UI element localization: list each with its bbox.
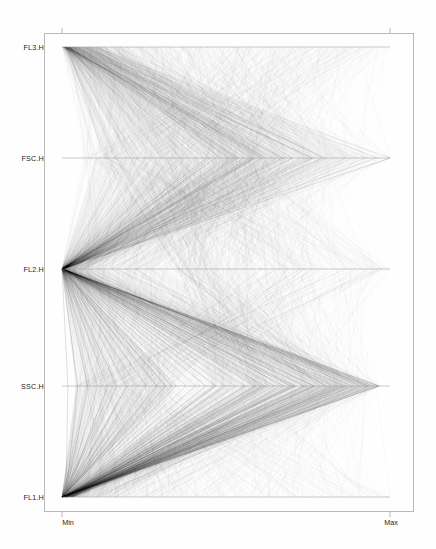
axis-label-fl3: FL3.H: [8, 43, 44, 52]
axis-label-fl1: FL1.H: [8, 493, 44, 502]
plot-canvas: [0, 0, 436, 549]
parallel-coordinates-figure: FL3.H FSC.H FL2.H SSC.H FL1.H Min Max: [0, 0, 436, 549]
parallel-coordinates-svg: [0, 0, 436, 549]
tick-label-min: Min: [62, 518, 74, 527]
axis-label-fl2: FL2.H: [8, 265, 44, 274]
axis-label-ssc: SSC.H: [8, 382, 44, 391]
axis-label-fsc: FSC.H: [8, 154, 44, 163]
data-line-group: [62, 47, 390, 497]
tick-label-max: Max: [384, 518, 398, 527]
